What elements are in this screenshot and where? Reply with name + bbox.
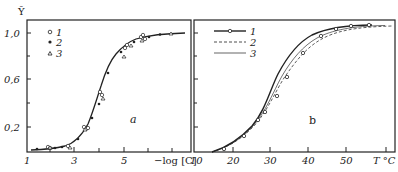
b-legend-label: 1 [250,26,256,37]
panel-a-frame [27,20,191,152]
open-circle-marker-icon [48,30,52,34]
a-fit-curve [31,33,185,150]
b-series-1-line [212,25,372,152]
b-xtick-label: 50 [340,155,353,166]
a-legend-label: 2 [55,37,62,48]
a-xtick-label: 1 [24,155,30,166]
a-legend: 1 2 3 [48,27,62,59]
a-xtick-label: 5 [121,155,127,166]
panel-b-frame [194,20,395,152]
b-xtick-label: 10 [190,155,203,166]
b-legend-label: 3 [250,48,256,59]
b-xtick-label: 20 [226,155,240,166]
b-legend: 1 2 3 [214,26,256,59]
filled-circle-marker-icon [48,40,51,43]
a-series-3 [48,32,173,149]
a-xtick-label: 3 [71,155,77,166]
a-ylabel: Ȳ [17,6,25,17]
a-ytick-label: 1,0 [4,28,21,39]
a-panel-label: a [130,113,137,126]
panel-b: 10 20 30 40 50 T °C b 1 2 3 [190,20,396,166]
open-circle-marker-icon [228,29,231,32]
b-xtick-label: 30 [264,155,277,166]
a-ytick-label: 0,6 [4,74,21,85]
b-xtick-label: 40 [301,155,315,166]
b-legend-label: 2 [249,37,256,48]
a-legend-label: 3 [56,48,62,59]
b-series-2-line [212,26,392,152]
open-triangle-marker-icon [48,52,52,56]
b-series-1-markers [222,23,370,150]
b-panel-label: b [309,114,316,127]
figure: Ȳ 1,0 0,6 0,2 1 3 5 −log [C] a 1 2 3 [0,0,398,172]
b-xlabel: T °C [373,155,396,166]
a-ytick-label: 0,2 [4,122,20,133]
panel-a: Ȳ 1,0 0,6 0,2 1 3 5 −log [C] a 1 2 3 [4,6,197,166]
